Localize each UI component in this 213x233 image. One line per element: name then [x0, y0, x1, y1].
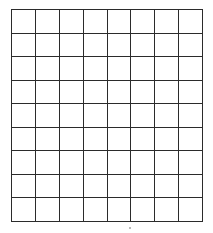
grid-cell-r8-c8[interactable] — [179, 175, 203, 199]
grid-cell-r4-c8[interactable] — [179, 81, 203, 105]
grid-cell-r9-c6[interactable] — [131, 198, 155, 222]
grid-cell-r7-c8[interactable] — [179, 151, 203, 175]
grid-cell-r7-c7[interactable] — [155, 151, 179, 175]
grid-cell-r3-c8[interactable] — [179, 57, 203, 81]
grid-cell-r6-c6[interactable] — [131, 128, 155, 152]
grid-cell-r4-c6[interactable] — [131, 81, 155, 105]
grid-cell-r6-c5[interactable] — [108, 128, 132, 152]
grid-cell-r8-c5[interactable] — [108, 175, 132, 199]
grid-cell-r1-c6[interactable] — [131, 10, 155, 34]
grid-cell-r3-c7[interactable] — [155, 57, 179, 81]
grid-cell-r4-c5[interactable] — [108, 81, 132, 105]
grid-cell-r9-c7[interactable] — [155, 198, 179, 222]
grid-cell-r9-c8[interactable] — [179, 198, 203, 222]
grid-cell-r2-c3[interactable] — [60, 34, 84, 58]
grid-cell-r5-c8[interactable] — [179, 104, 203, 128]
grid-cell-r6-c2[interactable] — [36, 128, 60, 152]
grid-cell-r6-c8[interactable] — [179, 128, 203, 152]
grid-cell-r5-c3[interactable] — [60, 104, 84, 128]
grid-cell-r5-c6[interactable] — [131, 104, 155, 128]
grid-cell-r1-c1[interactable] — [12, 10, 36, 34]
grid-cell-r5-c2[interactable] — [36, 104, 60, 128]
grid-cell-r1-c3[interactable] — [60, 10, 84, 34]
grid-cell-r3-c2[interactable] — [36, 57, 60, 81]
grid-cell-r9-c1[interactable] — [12, 198, 36, 222]
grid-cell-r1-c8[interactable] — [179, 10, 203, 34]
grid-cell-r6-c1[interactable] — [12, 128, 36, 152]
grid-cell-r6-c7[interactable] — [155, 128, 179, 152]
grid-cell-r7-c3[interactable] — [60, 151, 84, 175]
grid-cell-r7-c4[interactable] — [84, 151, 108, 175]
grid-cell-r9-c4[interactable] — [84, 198, 108, 222]
grid-cell-r4-c2[interactable] — [36, 81, 60, 105]
grid-cell-r8-c4[interactable] — [84, 175, 108, 199]
grid-cell-r1-c2[interactable] — [36, 10, 60, 34]
grid-cell-r2-c1[interactable] — [12, 34, 36, 58]
grid-cell-r9-c5[interactable] — [108, 198, 132, 222]
grid-cell-r8-c6[interactable] — [131, 175, 155, 199]
grid-cell-r3-c3[interactable] — [60, 57, 84, 81]
grid-cell-r8-c3[interactable] — [60, 175, 84, 199]
grid-cell-r9-c2[interactable] — [36, 198, 60, 222]
grid-cell-r2-c6[interactable] — [131, 34, 155, 58]
grid-cell-r7-c2[interactable] — [36, 151, 60, 175]
grid-cell-r7-c1[interactable] — [12, 151, 36, 175]
grid-cell-r4-c3[interactable] — [60, 81, 84, 105]
grid-cell-r5-c5[interactable] — [108, 104, 132, 128]
figure-canvas — [0, 0, 213, 233]
grid-cell-r7-c6[interactable] — [131, 151, 155, 175]
grid-cell-r9-c3[interactable] — [60, 198, 84, 222]
grid-cell-r2-c4[interactable] — [84, 34, 108, 58]
grid-cell-r6-c4[interactable] — [84, 128, 108, 152]
grid-cell-r3-c5[interactable] — [108, 57, 132, 81]
grid-cell-r8-c2[interactable] — [36, 175, 60, 199]
grid-cell-r1-c7[interactable] — [155, 10, 179, 34]
grid-cell-r2-c7[interactable] — [155, 34, 179, 58]
grid-cell-r4-c1[interactable] — [12, 81, 36, 105]
grid-cell-r2-c5[interactable] — [108, 34, 132, 58]
grid-cell-r1-c4[interactable] — [84, 10, 108, 34]
grid-cell-r8-c1[interactable] — [12, 175, 36, 199]
scan-speck — [129, 227, 131, 229]
grid-cell-r3-c4[interactable] — [84, 57, 108, 81]
grid-diagram — [11, 9, 203, 222]
grid-cell-r8-c7[interactable] — [155, 175, 179, 199]
grid-cell-r3-c1[interactable] — [12, 57, 36, 81]
grid-cell-r2-c8[interactable] — [179, 34, 203, 58]
grid-cell-r5-c4[interactable] — [84, 104, 108, 128]
grid-cell-r4-c7[interactable] — [155, 81, 179, 105]
grid-cell-r1-c5[interactable] — [108, 10, 132, 34]
grid-cell-r5-c7[interactable] — [155, 104, 179, 128]
grid-cell-r2-c2[interactable] — [36, 34, 60, 58]
grid-cell-r6-c3[interactable] — [60, 128, 84, 152]
grid-cell-r7-c5[interactable] — [108, 151, 132, 175]
grid-cell-r4-c4[interactable] — [84, 81, 108, 105]
grid-cell-r5-c1[interactable] — [12, 104, 36, 128]
grid-cell-r3-c6[interactable] — [131, 57, 155, 81]
